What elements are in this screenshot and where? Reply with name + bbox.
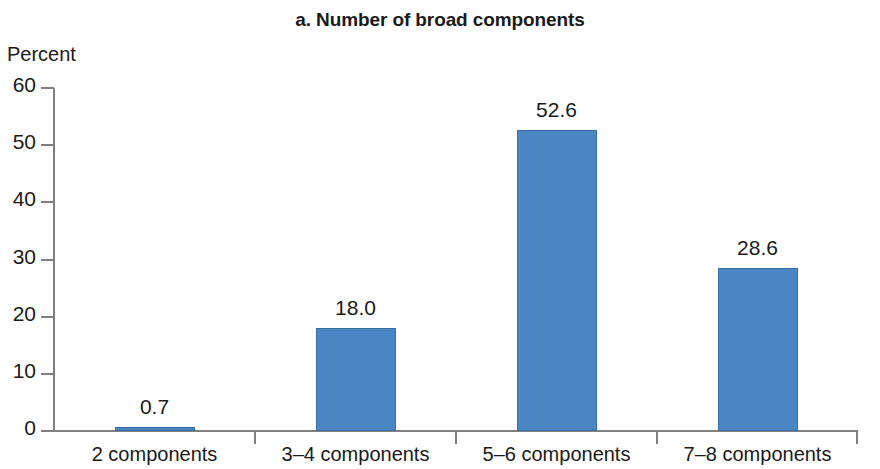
bar xyxy=(718,268,798,431)
y-axis-tick-label: 60 xyxy=(0,73,36,97)
y-axis-tick xyxy=(41,201,54,203)
x-axis-category-label: 5–6 components xyxy=(447,443,667,466)
bar xyxy=(517,130,597,431)
bar xyxy=(115,427,195,431)
bar xyxy=(316,328,396,431)
x-axis-category-label: 3–4 components xyxy=(246,443,466,466)
bar-chart: a. Number of broad components Percent 01… xyxy=(0,0,880,469)
y-axis-tick-label: 50 xyxy=(0,130,36,154)
y-axis-tick xyxy=(41,144,54,146)
y-axis-tick-label: 40 xyxy=(0,187,36,211)
y-axis-tick xyxy=(41,259,54,261)
bar-value-label: 28.6 xyxy=(698,236,818,260)
bar-value-label: 0.7 xyxy=(95,395,215,419)
y-axis-tick-label: 30 xyxy=(0,245,36,269)
y-axis-tick xyxy=(41,430,54,432)
bar-value-label: 52.6 xyxy=(497,98,617,122)
chart-title: a. Number of broad components xyxy=(0,9,880,31)
x-axis-category-label: 7–8 components xyxy=(648,443,868,466)
y-axis-tick-label: 0 xyxy=(0,416,36,440)
y-axis-tick xyxy=(41,316,54,318)
bar-value-label: 18.0 xyxy=(296,296,416,320)
y-axis-title: Percent xyxy=(7,43,76,66)
y-axis-tick-label: 10 xyxy=(0,359,36,383)
y-axis-tick xyxy=(41,87,54,89)
y-axis-tick xyxy=(41,373,54,375)
y-axis-tick-label: 20 xyxy=(0,302,36,326)
x-axis-category-label: 2 components xyxy=(45,443,265,466)
